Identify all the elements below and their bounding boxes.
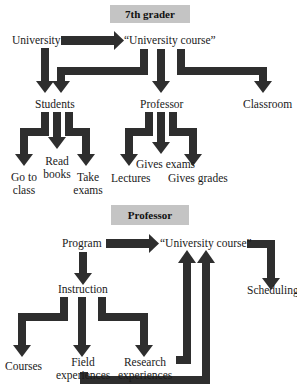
node-professor: Professor (140, 98, 183, 111)
node-read-books: Read books (40, 155, 74, 181)
arrow-instruction-to-courses (13, 297, 68, 357)
arrow-course-to-classroom (177, 49, 272, 93)
node-lectures: Lectures (111, 172, 151, 185)
arrows-layer (0, 0, 297, 392)
node-classroom: Classroom (243, 98, 292, 111)
node-instruction: Instruction (58, 283, 108, 296)
node-university-course-2: “University course” (160, 237, 252, 250)
node-courses: Courses (5, 360, 42, 373)
section-header-professor: Professor (111, 205, 189, 225)
node-go-to-class: Go to class (8, 171, 40, 197)
node-take-exams-line1: Take (71, 171, 105, 184)
arrow-students-to-read-books (48, 112, 66, 149)
node-students: Students (35, 98, 75, 111)
node-research-experiences: Research experiences (118, 356, 172, 382)
arrow-university-to-course (61, 31, 124, 50)
node-go-to-class-line2: class (8, 184, 40, 197)
concept-map-diagram: 7th grader University “University course… (0, 0, 297, 392)
arrow-course-to-professor (152, 49, 170, 93)
arrow-course-to-students (52, 49, 148, 93)
arrow-instruction-to-research (98, 297, 153, 357)
node-gives-grades: Gives grades (168, 172, 228, 185)
arrow-instruction-to-field (73, 297, 91, 357)
node-take-exams-line2: exams (71, 184, 105, 197)
arrow-professor-to-gives-exams (152, 112, 170, 154)
section-header-7th-grader: 7th grader (110, 5, 190, 23)
node-university: University (12, 34, 61, 47)
node-scheduling: Scheduling (247, 284, 297, 297)
arrow-research-to-course (176, 250, 196, 364)
node-research-line1: Research (118, 356, 172, 369)
node-program: Program (62, 237, 102, 250)
arrow-program-to-course (106, 234, 159, 253)
arrow-university-to-students (36, 48, 54, 93)
node-field-line1: Field (56, 356, 110, 369)
arrow-program-to-instruction (74, 252, 92, 285)
node-field-line2: experiences (56, 369, 110, 382)
node-read-books-line1: Read (40, 155, 74, 168)
node-read-books-line2: books (40, 168, 74, 181)
node-go-to-class-line1: Go to (8, 171, 40, 184)
node-research-line2: experiences (118, 369, 172, 382)
node-field-experiences: Field experiences (56, 356, 110, 382)
node-gives-exams: Gives exams (136, 158, 195, 171)
node-university-course: “University course” (124, 34, 216, 47)
node-take-exams: Take exams (71, 171, 105, 197)
